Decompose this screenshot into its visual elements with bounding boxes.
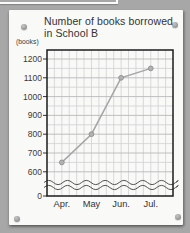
data-point-marker [148, 66, 153, 71]
x-axis-label: May [83, 199, 101, 209]
data-point-marker [89, 132, 94, 137]
y-axis-label: 900 [28, 110, 42, 120]
y-axis-label: 1000 [23, 92, 42, 102]
y-axis-label: 800 [28, 129, 42, 139]
plot-frame [47, 50, 173, 196]
data-point-marker [119, 75, 124, 80]
y-axis-label: 1200 [23, 54, 42, 64]
bulletin-board: Number of books borrowed in School B (bo… [0, 0, 190, 233]
x-axis-label: Jun. [112, 199, 130, 209]
upper-card-corner-edge [116, 0, 118, 4]
x-axis-label: Apr. [54, 199, 71, 209]
data-point-marker [59, 160, 64, 165]
y-axis-label: 600 [28, 167, 42, 177]
y-axis-label: 700 [28, 148, 42, 158]
line-chart: 0600700800900100011001200Apr.MayJun.Jul. [9, 34, 183, 224]
y-axis-label: 1100 [24, 73, 43, 83]
upper-card-bottom-edge [0, 2, 118, 4]
y-axis-label: 0 [37, 191, 42, 201]
x-axis-label: Jul. [144, 199, 158, 209]
poster-card: Number of books borrowed in School B (bo… [9, 10, 183, 225]
pin-icon [21, 24, 27, 30]
